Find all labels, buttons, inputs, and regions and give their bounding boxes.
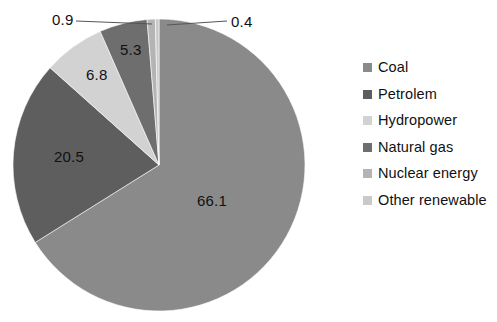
legend-swatch-icon [363,63,372,72]
legend-item[interactable]: Nuclear energy [363,166,497,181]
legend-item-label: Other renewable [378,193,487,208]
pie-slice-label-coal: 66.1 [197,192,227,209]
pie-slice-label-nuclear-energy: 0.9 [52,11,73,28]
legend-item[interactable]: Natural gas [363,140,497,155]
legend-item-label: Petrolem [378,87,437,102]
legend-item-label: Nuclear energy [378,166,478,181]
legend-swatch-icon [363,196,372,205]
legend-item-label: Hydropower [378,113,457,128]
legend-item-label: Coal [378,60,408,75]
pie-slice-label-petrolem: 20.5 [54,148,84,165]
legend-item[interactable]: Petrolem [363,87,497,102]
legend-swatch-icon [363,90,372,99]
legend-item[interactable]: Coal [363,60,497,75]
legend-swatch-icon [363,116,372,125]
legend-item[interactable]: Hydropower [363,113,497,128]
chart-legend: CoalPetrolemHydropowerNatural gasNuclear… [363,60,497,208]
pie-slice-label-hydropower: 6.8 [86,66,107,83]
pie-slice-label-natural-gas: 5.3 [120,41,141,58]
legend-item-label: Natural gas [378,140,453,155]
pie-chart: 66.1 20.5 6.8 5.3 0.9 0.4 CoalPetrolemHy… [0,0,497,322]
legend-swatch-icon [363,169,372,178]
pie-slice-label-other-renewable: 0.4 [231,13,252,30]
legend-swatch-icon [363,143,372,152]
legend-item[interactable]: Other renewable [363,193,497,208]
